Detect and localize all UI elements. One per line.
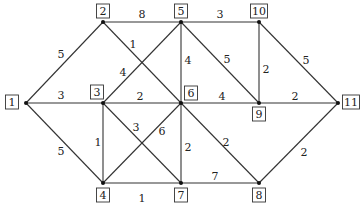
node-dot	[257, 101, 261, 105]
node-label: 6	[188, 87, 195, 100]
edge-8-11	[259, 103, 338, 183]
node-5: 5	[175, 4, 188, 24]
edge-weight-label: 4	[219, 90, 226, 103]
edge-weight-label: 6	[159, 125, 166, 138]
node-9: 9	[253, 101, 266, 121]
edge-1-4	[26, 103, 103, 183]
node-dot	[257, 181, 261, 185]
edge-weight-label: 2	[263, 63, 270, 76]
edge-weight-label: 8	[139, 8, 146, 21]
edge-10-11	[259, 22, 338, 103]
edge-weight-label: 1	[130, 38, 137, 51]
node-dot	[101, 20, 105, 24]
node-label: 5	[178, 5, 185, 18]
edge-weight-label: 5	[58, 145, 65, 158]
edge-weight-label: 1	[95, 136, 102, 149]
node-1: 1	[6, 95, 29, 109]
edge-weight-label: 2	[185, 141, 192, 154]
edge-weight-label: 1	[139, 192, 146, 205]
node-10: 10	[251, 4, 268, 24]
edge-weight-label: 4	[120, 66, 127, 79]
node-dot	[257, 20, 261, 24]
node-label: 1	[9, 96, 16, 109]
node-4: 4	[97, 181, 110, 202]
node-dot	[336, 101, 340, 105]
node-label: 4	[100, 189, 107, 202]
node-3: 3	[91, 85, 106, 105]
edge-weight-label: 3	[133, 121, 140, 134]
node-dot	[179, 181, 183, 185]
node-7: 7	[175, 181, 188, 202]
node-label: 7	[178, 189, 185, 202]
node-dot	[179, 101, 183, 105]
node-label: 2	[100, 5, 107, 18]
edge-weight-label: 2	[292, 90, 299, 103]
edge-6-8	[181, 103, 259, 183]
edge-weight-label: 5	[224, 53, 231, 66]
edge-weight-label: 7	[212, 170, 219, 183]
node-dot	[179, 20, 183, 24]
edge-weight-label: 5	[303, 54, 310, 67]
edge-weight-label: 5	[58, 48, 65, 61]
edge-weight-label: 2	[137, 90, 144, 103]
node-label: 8	[256, 189, 263, 202]
node-8: 8	[253, 181, 266, 202]
node-label: 3	[94, 86, 101, 99]
node-dot	[24, 101, 28, 105]
node-11: 11	[336, 95, 360, 109]
node-label: 9	[256, 108, 263, 121]
edge-weight-label: 3	[217, 8, 224, 21]
node-6: 6	[179, 86, 198, 105]
weighted-graph-diagram: 5358142136134542272522 1234567891011	[0, 0, 361, 208]
node-label: 11	[344, 96, 358, 109]
node-2: 2	[97, 4, 110, 24]
edge-weight-label: 2	[301, 146, 308, 159]
node-dot	[101, 181, 105, 185]
node-label: 10	[252, 5, 266, 18]
node-dot	[101, 101, 105, 105]
edge-weight-label: 4	[185, 54, 192, 67]
edge-weight-label: 2	[223, 136, 230, 149]
edge-weight-label: 3	[58, 89, 65, 102]
